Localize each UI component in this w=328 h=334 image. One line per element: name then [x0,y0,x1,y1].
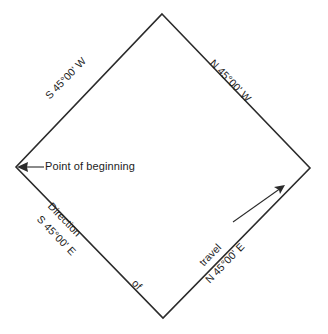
travel-direction-arrow-icon [274,185,285,194]
parcel-traverse-diagram: S 45°00' W N 45°00' W S 45°00' E N 45°00… [0,0,328,334]
point-of-beginning-label: Point of beginning [45,161,135,172]
